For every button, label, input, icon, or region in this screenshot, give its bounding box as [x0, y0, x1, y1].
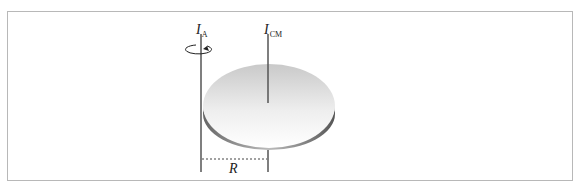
axis-a-label: IA: [196, 22, 207, 38]
axis-cm-label: ICM: [264, 22, 282, 38]
disk-diagram: [0, 0, 580, 188]
rotation-arrow-icon: [186, 45, 212, 54]
radius-label: R: [229, 161, 238, 177]
disk-top: [203, 64, 335, 148]
